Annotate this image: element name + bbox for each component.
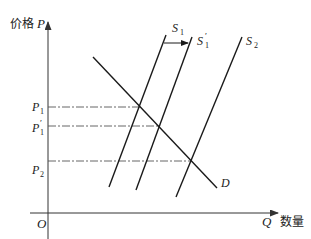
y-axis-label-var: P — [36, 16, 45, 31]
svg-text:2: 2 — [254, 41, 258, 50]
demand-curve-label: D — [220, 176, 230, 190]
supply-curve-s1 — [109, 35, 166, 187]
p1-label: P 1 — [31, 100, 44, 116]
svg-text:2: 2 — [40, 170, 44, 179]
supply-curve-s1-label: S 1 — [172, 21, 184, 37]
svg-text:1: 1 — [40, 128, 44, 137]
origin-label: O — [37, 216, 47, 231]
svg-text:′: ′ — [205, 31, 207, 41]
supply-demand-diagram: 价格 P Q 数量 O P 1 P 1 ′ P 2 D S 1 S 1 ′ S … — [0, 0, 311, 239]
supply-curve-s1-prime — [136, 37, 192, 190]
supply-curve-s2-label: S 2 — [246, 34, 258, 50]
x-axis-label-cn: 数量 — [280, 214, 304, 229]
svg-text:S: S — [246, 34, 252, 48]
svg-text:P: P — [31, 121, 40, 135]
svg-text:P: P — [31, 100, 40, 114]
svg-text:S: S — [197, 34, 203, 48]
p2-label: P 2 — [31, 163, 44, 179]
y-axis-label-cn: 价格 — [10, 16, 34, 31]
demand-curve-d — [93, 57, 217, 188]
svg-text:1: 1 — [40, 107, 44, 116]
supply-curve-s1-prime-label: S 1 ′ — [197, 31, 209, 50]
x-axis-label-var: Q — [262, 214, 272, 229]
svg-text:1: 1 — [205, 41, 209, 50]
supply-curve-s2 — [176, 37, 242, 197]
svg-text:P: P — [31, 163, 40, 177]
svg-text:S: S — [172, 21, 178, 35]
svg-text:′: ′ — [40, 118, 42, 128]
p1-prime-label: P 1 ′ — [31, 118, 44, 137]
svg-text:1: 1 — [180, 28, 184, 37]
